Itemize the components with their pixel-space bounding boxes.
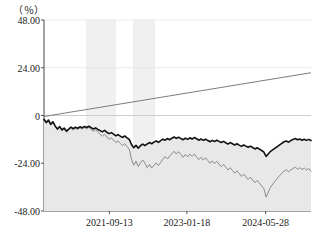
x-tick-label-2: 2024-05-28 — [242, 217, 289, 228]
x-tick-label-1: 2023-01-18 — [164, 217, 211, 228]
x-tick-label-0: 2021-09-13 — [86, 217, 133, 228]
plot-area — [0, 0, 318, 243]
chart-container: （％） 48.0024.000-24.00-48.00 2021-09-1320… — [0, 0, 318, 243]
series-area-fund-line — [44, 119, 311, 211]
series-line-trend-line — [44, 73, 311, 117]
